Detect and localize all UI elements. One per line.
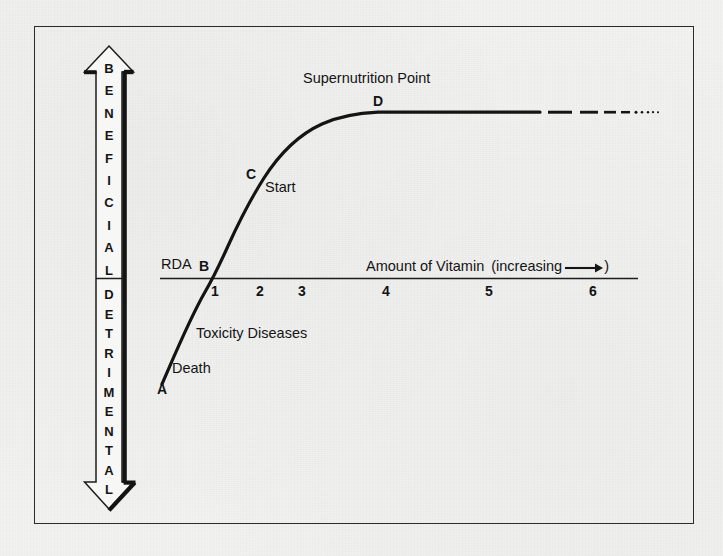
beneficial-letter: I: [96, 219, 122, 232]
beneficial-letter: E: [96, 129, 122, 142]
x-tick-label-5: 5: [479, 283, 499, 299]
x-axis-title: Amount of Vitamin (increasing ): [366, 258, 609, 274]
x-tick-label-4: 4: [376, 283, 396, 299]
start-label: Start: [265, 179, 296, 195]
x-tick-label-3: 3: [292, 283, 312, 299]
beneficial-letter: F: [96, 152, 122, 165]
vertical-axis-label-detrimental: D E T R I M E N T A L: [96, 288, 122, 503]
rda-label: RDA: [161, 256, 192, 272]
detrimental-letter: I: [96, 366, 122, 379]
x-axis-title-qualifier-close: ): [604, 258, 609, 274]
supernutrition-point-label: Supernutrition Point: [303, 70, 430, 86]
detrimental-letter: N: [96, 425, 122, 438]
beneficial-letter: N: [96, 107, 122, 120]
detrimental-letter: M: [96, 386, 122, 399]
detrimental-letter: D: [96, 288, 122, 301]
detrimental-letter: T: [96, 327, 122, 340]
detrimental-letter: R: [96, 347, 122, 360]
beneficial-letter: L: [96, 264, 122, 277]
point-label-b: B: [199, 258, 209, 274]
point-label-a: A: [157, 381, 167, 397]
detrimental-letter: L: [96, 483, 122, 496]
figure-canvas: B E N E F I C I A L D E T R I M E N T A …: [0, 0, 723, 556]
x-tick-label-1: 1: [205, 283, 225, 299]
beneficial-letter: B: [96, 62, 122, 75]
beneficial-letter: A: [96, 241, 122, 254]
x-axis-title-text: Amount of Vitamin: [366, 258, 484, 274]
point-label-c: C: [246, 166, 256, 182]
toxicity-diseases-label: Toxicity Diseases: [196, 325, 307, 341]
dose-response-curve: [162, 112, 540, 384]
x-axis-title-qualifier: (increasing: [491, 258, 562, 274]
x-tick-label-6: 6: [583, 283, 603, 299]
beneficial-letter: E: [96, 84, 122, 97]
curve-dashed-extension: [548, 111, 659, 114]
x-tick-label-2: 2: [250, 283, 270, 299]
detrimental-letter: T: [96, 444, 122, 457]
point-label-d: D: [373, 93, 383, 109]
detrimental-letter: E: [96, 405, 122, 418]
detrimental-letter: A: [96, 464, 122, 477]
beneficial-letter: I: [96, 174, 122, 187]
vertical-axis-label-beneficial: B E N E F I C I A L: [96, 62, 122, 286]
beneficial-letter: C: [96, 196, 122, 209]
death-label: Death: [172, 360, 211, 376]
detrimental-letter: E: [96, 308, 122, 321]
right-arrow-icon: [565, 261, 603, 271]
